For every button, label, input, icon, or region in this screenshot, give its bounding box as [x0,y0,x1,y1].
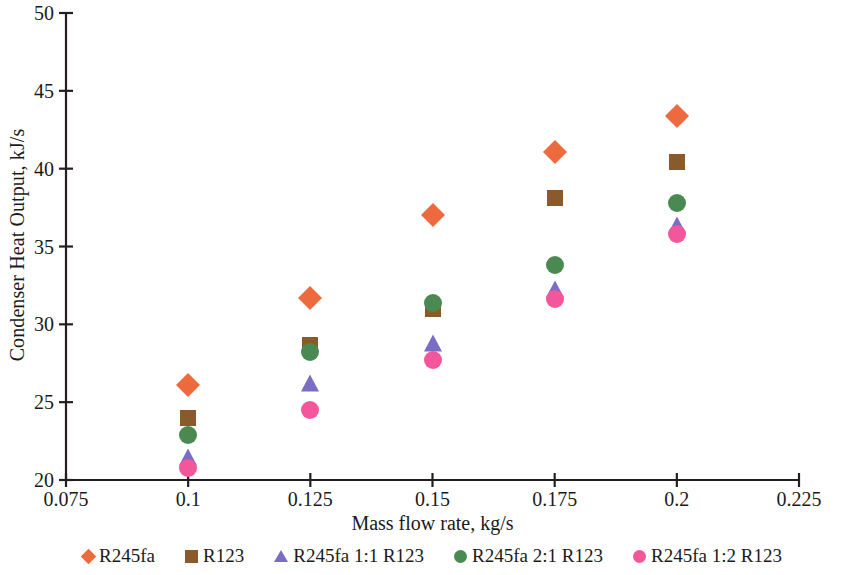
data-point [547,190,563,206]
data-point [301,343,319,361]
y-tick-label: 25 [0,392,54,412]
scatter-chart: Condenser Heat Output, kJ/s 504540353025… [0,0,865,575]
legend-item[interactable]: R245fa 1:2 R123 [633,545,782,567]
x-tick-label: 0.225 [739,489,859,509]
data-point [424,294,442,312]
legend-label: R123 [203,545,244,567]
data-point [668,194,686,212]
legend-label: R245fa 1:2 R123 [651,545,782,567]
legend-marker-icon [185,550,198,563]
y-tick-label: 40 [0,159,54,179]
data-point [546,256,564,274]
y-tick-label: 50 [0,3,54,23]
x-tick-label: 0.2 [617,489,737,509]
data-point [180,377,197,394]
data-point [546,290,564,308]
data-point [179,426,197,444]
legend-label: R245fa 1:1 R123 [293,545,424,567]
data-point [301,375,319,392]
legend-marker-icon [633,550,646,563]
y-tick-label: 30 [0,314,54,334]
legend-label: R245fa 2:1 R123 [472,545,603,567]
legend-marker-icon [81,548,97,564]
x-tick-label: 0.1 [128,489,248,509]
data-point [179,459,197,477]
x-tick-label: 0.125 [250,489,370,509]
x-axis-title: Mass flow rate, kg/s [66,512,799,535]
chart-legend: R245faR123R245fa 1:1 R123R245fa 2:1 R123… [0,545,865,567]
data-point [546,143,563,160]
legend-marker-icon [454,550,467,563]
data-point [301,401,319,419]
data-point [180,410,196,426]
data-point [424,207,441,224]
x-tick-label: 0.15 [373,489,493,509]
legend-marker-icon [274,550,288,562]
data-point [424,351,442,369]
legend-item[interactable]: R245fa 2:1 R123 [454,545,603,567]
y-tick-label: 35 [0,237,54,257]
data-point [669,154,685,170]
y-tick-label: 45 [0,81,54,101]
data-point [668,225,686,243]
legend-item[interactable]: R123 [185,545,244,567]
x-tick-label: 0.075 [6,489,126,509]
data-point [302,289,319,306]
legend-label: R245fa [99,545,155,567]
y-tick-label: 20 [0,470,54,490]
legend-item[interactable]: R245fa [83,545,155,567]
data-point [668,107,685,124]
legend-item[interactable]: R245fa 1:1 R123 [274,545,424,567]
data-point [424,335,442,352]
x-tick-label: 0.175 [495,489,615,509]
